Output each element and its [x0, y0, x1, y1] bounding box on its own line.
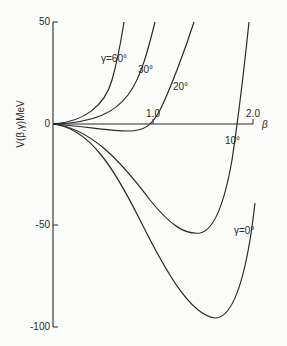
curve-gamma-20 [53, 22, 194, 131]
y-axis-label: V(β,γ)MeV [15, 100, 26, 148]
y-tick-50: 50 [39, 16, 51, 27]
label-gamma-60: γ=60° [101, 53, 127, 64]
curve-gamma-0 [53, 124, 255, 318]
label-gamma-0: γ=0° [234, 225, 254, 236]
x-axis-label: β [261, 119, 268, 130]
y-tick-minus-50: -50 [36, 219, 51, 230]
label-gamma-20: 20° [173, 81, 188, 92]
label-gamma-30: 30° [138, 64, 153, 75]
y-tick-0: 0 [44, 118, 50, 129]
curve-gamma-10 [53, 22, 249, 233]
potential-chart: 50 0 -50 -100 1.0 2.0 β V(β,γ)MeV γ=60° … [0, 0, 287, 346]
label-gamma-10: 10° [225, 135, 240, 146]
x-tick-2: 2.0 [246, 108, 260, 119]
y-tick-minus-100: -100 [30, 321, 50, 332]
